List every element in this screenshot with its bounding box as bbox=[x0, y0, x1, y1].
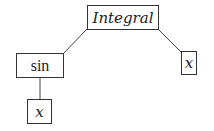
node-integral: Integral bbox=[87, 5, 159, 30]
node-sin: sin bbox=[16, 53, 64, 78]
edge-root-x-right bbox=[158, 29, 181, 52]
edge-root-sin bbox=[64, 29, 87, 53]
node-x-bottom: x bbox=[27, 99, 52, 124]
node-x-right: x bbox=[181, 51, 197, 75]
